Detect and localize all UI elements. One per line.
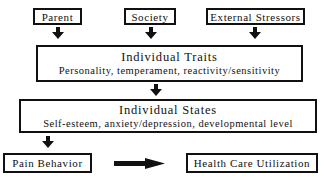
arrows-layer: [0, 0, 327, 180]
down-arrow-icon: [145, 27, 157, 39]
down-arrow-icon: [249, 27, 261, 39]
down-arrow-icon: [42, 136, 54, 148]
right-arrow-icon: [114, 158, 165, 169]
down-arrow-icon: [150, 84, 162, 96]
down-arrow-icon: [52, 27, 64, 39]
